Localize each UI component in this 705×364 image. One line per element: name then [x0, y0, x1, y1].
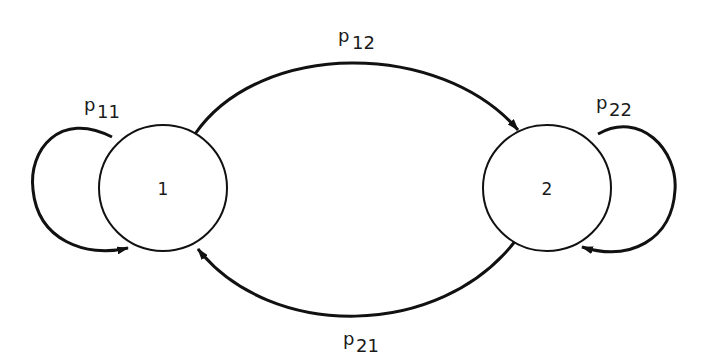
svg-text:21: 21 [356, 335, 379, 356]
label-p12: p 12 [338, 25, 375, 53]
svg-text:p: p [596, 92, 607, 113]
label-p22: p 22 [596, 92, 632, 120]
state-2-label: 2 [542, 179, 553, 199]
edge-p12 [195, 63, 518, 134]
svg-text:p: p [343, 328, 354, 349]
state-1-label: 1 [158, 179, 169, 199]
svg-text:p: p [84, 94, 95, 115]
label-p21: p 21 [343, 328, 379, 356]
edge-p21 [198, 240, 516, 316]
svg-text:12: 12 [352, 32, 375, 53]
label-p11: p 11 [84, 94, 120, 122]
svg-text:22: 22 [609, 99, 632, 120]
markov-diagram: 1 2 p 11 p 12 p 21 p 22 [0, 0, 705, 364]
svg-text:p: p [338, 25, 349, 46]
svg-text:11: 11 [97, 101, 120, 122]
